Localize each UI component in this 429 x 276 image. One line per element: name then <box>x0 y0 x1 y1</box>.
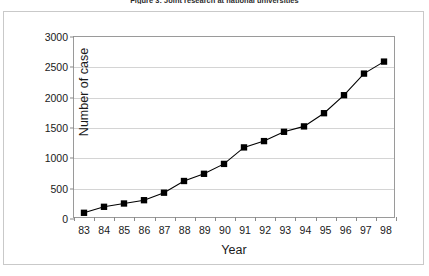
x-tick-mark <box>74 217 75 221</box>
y-tick-label: 1000 <box>45 152 68 164</box>
data-point-marker <box>201 171 207 177</box>
x-tick-mark <box>94 217 95 221</box>
figure-root: Figure 3: Joint research at national uni… <box>0 0 429 276</box>
data-point-marker <box>361 70 367 76</box>
x-tick-mark <box>396 217 397 221</box>
y-tick-label: 500 <box>50 183 68 195</box>
data-point-marker <box>301 123 307 129</box>
x-tick-label: 86 <box>139 224 151 236</box>
x-tick-label: 98 <box>380 224 392 236</box>
x-tick-mark <box>336 217 337 221</box>
x-tick-label: 83 <box>78 224 90 236</box>
x-tick-label: 88 <box>179 224 191 236</box>
x-tick-label: 94 <box>300 224 312 236</box>
y-tick-label: 3000 <box>45 31 68 43</box>
y-tick-label: 2500 <box>45 61 68 73</box>
x-axis-title: Year <box>74 243 394 257</box>
x-tick-mark <box>155 217 156 221</box>
x-tick-mark <box>235 217 236 221</box>
x-tick-label: 87 <box>159 224 171 236</box>
data-point-marker <box>141 197 147 203</box>
x-tick-mark <box>195 217 196 221</box>
data-point-marker <box>161 190 167 196</box>
x-tick-label: 91 <box>239 224 251 236</box>
data-point-marker <box>221 161 227 167</box>
x-tick-label: 96 <box>340 224 352 236</box>
x-tick-label: 89 <box>199 224 211 236</box>
x-tick-mark <box>356 217 357 221</box>
plot-area: Number of case 050010001500200025003000 … <box>73 36 395 218</box>
data-point-marker <box>241 144 247 150</box>
x-tick-mark <box>215 217 216 221</box>
data-point-marker <box>181 178 187 184</box>
x-tick-label: 93 <box>279 224 291 236</box>
x-tick-label: 90 <box>219 224 231 236</box>
data-point-marker <box>341 92 347 98</box>
x-tick-mark <box>275 217 276 221</box>
x-tick-mark <box>316 217 317 221</box>
x-tick-mark <box>376 217 377 221</box>
y-tick-label: 0 <box>62 213 68 225</box>
data-point-marker <box>81 210 87 216</box>
data-point-marker <box>101 204 107 210</box>
x-tick-mark <box>255 217 256 221</box>
chart-frame: Number of case 050010001500200025003000 … <box>3 11 424 265</box>
x-tick-label: 97 <box>360 224 372 236</box>
x-tick-label: 85 <box>118 224 130 236</box>
figure-caption: Figure 3: Joint research at national uni… <box>0 0 429 4</box>
data-series <box>74 37 394 217</box>
y-tick-label: 2000 <box>45 92 68 104</box>
series-line <box>84 62 384 213</box>
series-markers <box>81 58 387 216</box>
x-tick-mark <box>175 217 176 221</box>
x-tick-label: 84 <box>98 224 110 236</box>
x-tick-mark <box>114 217 115 221</box>
x-tick-mark <box>295 217 296 221</box>
data-point-marker <box>281 129 287 135</box>
x-tick-label: 95 <box>320 224 332 236</box>
x-tick-mark <box>134 217 135 221</box>
data-point-marker <box>321 110 327 116</box>
data-point-marker <box>261 138 267 144</box>
y-tick-label: 1500 <box>45 122 68 134</box>
x-tick-label: 92 <box>259 224 271 236</box>
data-point-marker <box>381 58 387 64</box>
data-point-marker <box>121 200 127 206</box>
